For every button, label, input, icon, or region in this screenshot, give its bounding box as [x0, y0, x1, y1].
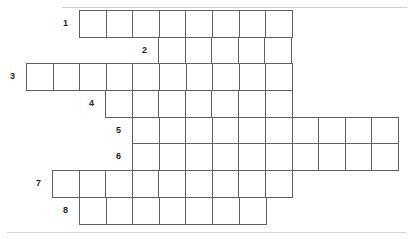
grid-cell[interactable]: [345, 117, 373, 145]
grid-cell[interactable]: [159, 63, 187, 91]
grid-cell[interactable]: [211, 37, 239, 65]
grid-cell[interactable]: [105, 170, 133, 198]
grid-cell[interactable]: [212, 63, 240, 91]
grid-cell[interactable]: [26, 63, 54, 91]
grid-cell[interactable]: [185, 170, 213, 198]
clue-number-6: 6: [107, 152, 121, 161]
grid-cell[interactable]: [238, 37, 266, 65]
clue-number-7: 7: [27, 179, 41, 188]
grid-cell[interactable]: [53, 63, 81, 91]
grid-cell[interactable]: [265, 90, 293, 118]
clue-number-3: 3: [1, 72, 15, 81]
grid-cell[interactable]: [185, 90, 213, 118]
grid-cell[interactable]: [292, 117, 320, 145]
grid-cell[interactable]: [132, 143, 160, 171]
crossword-puzzle: 12345678: [0, 0, 413, 239]
grid-cell[interactable]: [79, 170, 107, 198]
clue-number-2: 2: [133, 46, 147, 55]
grid-cell[interactable]: [318, 143, 346, 171]
bottom-divider-rule: [7, 232, 406, 233]
grid-cell[interactable]: [79, 10, 107, 38]
grid-cell[interactable]: [159, 10, 187, 38]
grid-cell[interactable]: [185, 143, 213, 171]
grid-cell[interactable]: [158, 37, 186, 65]
grid-cell[interactable]: [106, 10, 134, 38]
grid-cell[interactable]: [212, 170, 240, 198]
grid-cell[interactable]: [158, 170, 186, 198]
grid-cell[interactable]: [52, 170, 80, 198]
grid-cell[interactable]: [185, 37, 213, 65]
grid-cell[interactable]: [159, 117, 187, 145]
grid-cell[interactable]: [292, 143, 320, 171]
grid-cell[interactable]: [106, 197, 134, 225]
grid-cell[interactable]: [159, 143, 187, 171]
grid-cell[interactable]: [265, 10, 293, 38]
grid-cell[interactable]: [345, 143, 373, 171]
grid-cell[interactable]: [132, 197, 160, 225]
grid-cell[interactable]: [238, 143, 266, 171]
grid-cell[interactable]: [132, 10, 160, 38]
grid-cell[interactable]: [186, 63, 214, 91]
grid-cell[interactable]: [212, 117, 240, 145]
grid-cell[interactable]: [212, 143, 240, 171]
grid-cell[interactable]: [239, 10, 267, 38]
grid-cell[interactable]: [185, 197, 213, 225]
grid-cell[interactable]: [212, 197, 240, 225]
grid-cell[interactable]: [185, 10, 213, 38]
grid-cell[interactable]: [159, 197, 187, 225]
grid-cell[interactable]: [371, 117, 399, 145]
grid-cell[interactable]: [132, 90, 160, 118]
grid-cell[interactable]: [238, 170, 266, 198]
grid-cell[interactable]: [79, 197, 107, 225]
grid-cell[interactable]: [132, 170, 160, 198]
grid-cell[interactable]: [132, 63, 160, 91]
grid-cell[interactable]: [238, 117, 266, 145]
grid-cell[interactable]: [265, 117, 293, 145]
clue-number-8: 8: [54, 206, 68, 215]
crossword-grid: 12345678: [0, 0, 413, 239]
grid-cell[interactable]: [185, 117, 213, 145]
grid-cell[interactable]: [239, 197, 267, 225]
grid-cell[interactable]: [264, 37, 292, 65]
grid-cell[interactable]: [238, 90, 266, 118]
grid-cell[interactable]: [79, 63, 107, 91]
grid-cell[interactable]: [239, 63, 267, 91]
grid-cell[interactable]: [211, 90, 239, 118]
grid-cell[interactable]: [106, 63, 134, 91]
grid-cell[interactable]: [265, 170, 293, 198]
grid-cell[interactable]: [265, 143, 293, 171]
grid-cell[interactable]: [371, 143, 399, 171]
clue-number-4: 4: [80, 99, 94, 108]
grid-cell[interactable]: [318, 117, 346, 145]
clue-number-1: 1: [54, 19, 68, 28]
grid-cell[interactable]: [132, 117, 160, 145]
grid-cell[interactable]: [212, 10, 240, 38]
clue-number-5: 5: [107, 126, 121, 135]
grid-cell[interactable]: [265, 63, 293, 91]
grid-cell[interactable]: [105, 90, 133, 118]
grid-cell[interactable]: [158, 90, 186, 118]
